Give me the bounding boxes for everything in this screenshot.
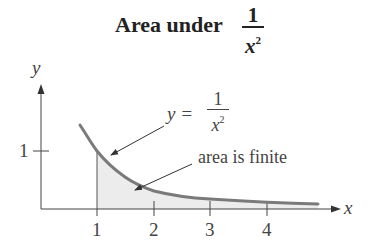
curve-label-fraction: 1 x2 — [207, 90, 229, 135]
area-label: area is finite — [198, 147, 287, 168]
denominator-base: x — [212, 115, 220, 135]
x-tick-label-4: 4 — [262, 219, 272, 241]
area-label-arrow-icon — [135, 164, 192, 190]
curve-label-numerator: 1 — [207, 90, 229, 109]
x-axis-label: x — [344, 197, 352, 219]
x-tick-label-2: 2 — [149, 219, 159, 241]
x-axis-arrow-icon — [331, 206, 341, 213]
y-axis-label: y — [32, 57, 40, 79]
curve-label-equation: y = — [167, 103, 193, 124]
denominator-exponent: 2 — [220, 114, 225, 125]
x-tick-label-3: 3 — [205, 219, 215, 241]
curve-label-lhs: y = — [167, 103, 193, 125]
x-tick-label-1: 1 — [92, 219, 102, 241]
curve-label-denominator: x2 — [207, 110, 229, 135]
y-tick-label-1: 1 — [19, 140, 29, 162]
curve-label-arrow-icon — [111, 126, 164, 155]
y-axis-arrow-icon — [38, 84, 45, 94]
